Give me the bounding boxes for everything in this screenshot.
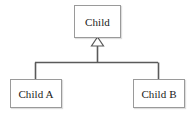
uml-class-name-child-b: Child B xyxy=(141,88,176,100)
uml-class-box-child-a[interactable]: Child A xyxy=(10,79,62,108)
uml-class-box-child-b[interactable]: Child B xyxy=(133,79,185,108)
uml-class-name-child: Child xyxy=(85,16,110,28)
hollow-triangle-arrowhead-icon xyxy=(92,37,104,46)
uml-class-box-child[interactable]: Child xyxy=(74,5,121,38)
uml-diagram-canvas: Child Child A Child B xyxy=(0,0,195,113)
uml-class-name-child-a: Child A xyxy=(18,88,53,100)
